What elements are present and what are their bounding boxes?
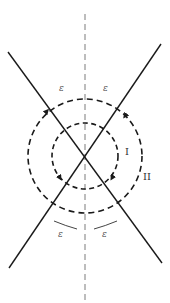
label-eps-bottom-left: ε	[58, 229, 63, 239]
label-eps-top-right: ε	[103, 83, 108, 93]
label-eps-top-left: ε	[59, 83, 64, 93]
epsilon-arc-right	[94, 221, 117, 229]
label-contour-outer: II	[143, 171, 151, 182]
epsilon-arc-left	[54, 221, 77, 229]
label-contour-inner: I	[125, 146, 129, 157]
label-eps-bottom-right: ε	[102, 229, 107, 239]
line-descending	[8, 52, 162, 263]
diagram-canvas: ε ε ε ε I II	[0, 0, 170, 303]
